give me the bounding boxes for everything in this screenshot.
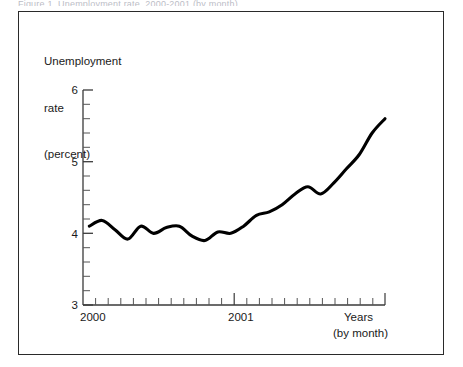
y-tick-label-5: 5 xyxy=(54,156,78,168)
y-axis-title-line1: Unemployment xyxy=(44,54,121,70)
x-axis-title-line1: Years xyxy=(344,311,373,323)
y-tick-label-3: 3 xyxy=(54,299,78,311)
y-tick-label-6: 6 xyxy=(54,84,78,96)
x-tick-label-2001: 2001 xyxy=(228,311,254,323)
y-axis-title-line2: rate xyxy=(44,101,121,117)
x-axis-title-line2: (by month) xyxy=(333,327,388,339)
y-tick-label-4: 4 xyxy=(54,228,78,240)
x-tick-label-2000: 2000 xyxy=(80,311,106,323)
figure-root: Figure 1. Unemployment rate, 2000-2001 (… xyxy=(0,0,463,367)
unemployment-rate-line xyxy=(89,119,385,241)
